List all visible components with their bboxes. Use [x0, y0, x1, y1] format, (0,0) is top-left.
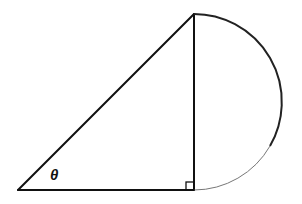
right-angle-marker: [186, 182, 194, 190]
angle-theta-label: θ: [50, 166, 59, 183]
diagram: θ: [0, 0, 302, 204]
semicircle-arc-lower: [194, 146, 270, 190]
triangle-hypotenuse: [18, 14, 194, 190]
semicircle-arc-upper: [194, 14, 282, 146]
